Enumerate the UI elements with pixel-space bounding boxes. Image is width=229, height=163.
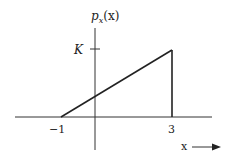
pdf-ramp-line [61, 50, 172, 117]
pdf-diagram: px(x) K −1 3 x [0, 0, 229, 163]
arrow-right-icon [212, 144, 221, 151]
x-axis-label: x [181, 140, 188, 153]
y-tick-label-k: K [73, 43, 84, 57]
x-tick-label-neg1: −1 [49, 123, 65, 136]
y-axis-label: px(x) [91, 9, 119, 25]
x-tick-label-3: 3 [168, 123, 175, 136]
